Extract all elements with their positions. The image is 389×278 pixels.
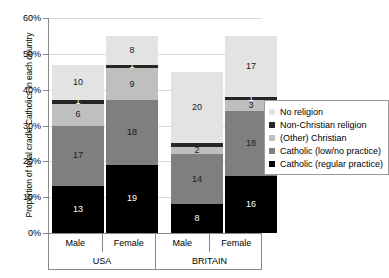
y-axis-tick-label: 0% [1,228,41,238]
y-axis-tick-label: 10% [1,192,41,202]
bar-usa-male: 13176110 [52,65,104,233]
bar-segment: 6 [52,104,104,126]
bar-segment: 8 [106,36,158,65]
y-axis-tick [43,197,48,198]
legend-swatch-icon [269,148,275,154]
group-axis: USABRITAIN [48,252,262,270]
bar-segment-value: 19 [127,194,137,203]
group-label-usa: USA [49,252,156,270]
bar-segment: 10 [52,65,104,101]
category-axis: MaleFemaleMaleFemale [48,234,262,252]
y-axis-tick-label: 60% [1,13,41,23]
y-axis-tick [43,161,48,162]
bar-segment: 17 [225,36,277,97]
legend-item[interactable]: Catholic (low/no practice) [269,144,383,157]
bar-segment: 9 [106,68,158,100]
group-label-britain: BRITAIN [156,252,263,270]
bar-segment-value: 6 [75,110,80,119]
legend-item[interactable]: Non-Christian religion [269,118,383,131]
y-axis-tick-label: 40% [1,85,41,95]
bar-britain-male: 814220 [171,72,223,233]
bar-segment-value: 10 [73,78,83,87]
y-axis-tick [43,90,48,91]
bar-segment: 14 [171,154,223,204]
bar-segment: 2 [171,147,223,154]
legend-label: Non-Christian religion [280,120,367,130]
bar-segment-value: 16 [246,200,256,209]
y-axis-tick-label: 20% [1,156,41,166]
y-axis-tick [43,18,48,19]
legend-label: Catholic (low/no practice) [280,146,381,156]
legend-swatch-icon [269,122,275,128]
legend-label: Catholic (regular practice) [280,159,383,169]
chart-legend: No religionNon-Christian religion(Other)… [264,100,389,175]
bar-segment: 13 [52,186,104,233]
category-label-female: Female [103,234,157,252]
bar-segment-value: 20 [192,103,202,112]
bar-segment [171,143,223,147]
bar-segment-value: 18 [127,128,137,137]
bar-segment-value: 2 [194,146,199,155]
bar-segment-value: 17 [246,62,256,71]
legend-label: (Other) Christian [280,133,347,143]
y-axis-tick-label: 50% [1,49,41,59]
bar-segment: 20 [171,72,223,144]
bar-segment: 1 [52,100,104,104]
bar-segment: 17 [52,126,104,187]
category-label-male-britain: Male [156,234,210,252]
legend-item[interactable]: (Other) Christian [269,131,383,144]
y-axis-tick-label: 30% [1,121,41,131]
y-axis-tick [43,54,48,55]
bar-segment: 18 [106,100,158,165]
gridline [49,18,262,19]
legend-item[interactable]: Catholic (regular practice) [269,157,383,170]
bar-usa-female: 1918918 [106,36,158,233]
bar-segment: 19 [106,165,158,233]
bar-segment-value: 8 [129,46,134,55]
bar-segment-value: 9 [129,80,134,89]
bar-segment: 1 [106,65,158,69]
legend-label: No religion [280,107,323,117]
legend-swatch-icon [269,161,275,167]
plot-area: 60%50%40%30%20%10%0% 1317611019189188142… [48,18,262,234]
bar-segment-value: 8 [194,214,199,223]
bar-segment-value: 17 [73,151,83,160]
legend-swatch-icon [269,109,275,115]
y-axis-tick [43,126,48,127]
category-label-female-britain: Female [210,234,264,252]
legend-item[interactable]: No religion [269,105,383,118]
bar-segment: 16 [225,176,277,233]
bar-segment-value: 18 [246,139,256,148]
bar-segment-value: 13 [73,205,83,214]
bar-segment-value: 3 [248,101,253,110]
legend-swatch-icon [269,135,275,141]
bar-segment: 8 [171,204,223,233]
bar-segment-value: 14 [192,175,202,184]
category-label-male: Male [49,234,103,252]
